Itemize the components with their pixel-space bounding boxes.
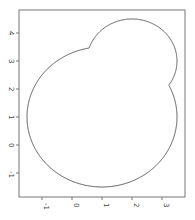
chart: -10123 -101234 [0,0,195,220]
union-outline [27,19,177,187]
y-tick-label: -1 [7,171,15,178]
y-tick-label: 0 [7,143,15,147]
y-axis-ticks: -101234 [7,31,19,178]
y-tick-label: 4 [7,31,15,36]
x-tick-label: 0 [72,203,80,207]
x-tick-label: 2 [132,203,140,207]
x-tick-label: -1 [42,203,50,210]
plot-frame [19,10,185,197]
x-tick-label: 3 [162,203,170,207]
y-tick-label: 3 [7,59,15,63]
y-tick-label: 2 [7,87,15,91]
x-axis-ticks: -10123 [42,197,170,210]
y-tick-label: 1 [7,115,15,119]
x-tick-label: 1 [102,203,110,207]
